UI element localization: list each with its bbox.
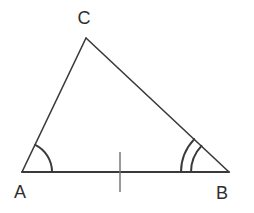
triangle-diagram-svg: A B C: [0, 0, 254, 213]
side-CB: [86, 38, 229, 172]
vertex-label-C: C: [78, 8, 91, 28]
angle-arc-B-1: [191, 146, 202, 172]
vertex-label-A: A: [14, 182, 26, 202]
angle-mark-A: [35, 145, 52, 172]
geometry-figure: A B C: [0, 0, 254, 213]
angle-arc-A-1: [35, 145, 52, 172]
vertex-label-B: B: [216, 183, 228, 203]
side-AC: [22, 38, 86, 172]
